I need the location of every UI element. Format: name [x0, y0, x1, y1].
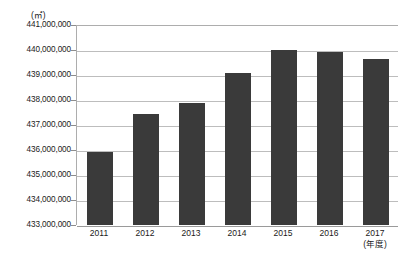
y-axis-tick-mark [71, 100, 76, 101]
bar [363, 59, 389, 225]
y-axis-tick-label: 437,000,000 [27, 120, 71, 130]
y-axis-tick-label: 434,000,000 [27, 195, 71, 205]
bar [87, 152, 113, 225]
x-axis-tick-label-text: 2014 [228, 228, 247, 238]
x-axis-tick-label-text: 2013 [182, 228, 201, 238]
y-axis-tick-label: 433,000,000 [27, 220, 71, 230]
x-axis-tick-label: 2017(年度) [352, 228, 398, 250]
y-axis-tick-mark [71, 50, 76, 51]
bar-series [77, 26, 398, 225]
bar-chart: (㎡) 441,000,000440,000,000439,000,000438… [0, 0, 405, 269]
x-axis-tick-label: 2014 [214, 228, 260, 239]
x-axis-unit-note: (年度) [352, 239, 398, 250]
gridline [77, 226, 398, 227]
bar [271, 50, 297, 225]
bar [317, 52, 343, 225]
y-axis-tick-label: 441,000,000 [27, 20, 71, 30]
y-axis-tick-mark [71, 150, 76, 151]
x-axis-tick-label-text: 2017 [366, 228, 385, 238]
x-axis-tick-labels: 2011201220132014201520162017(年度) [76, 228, 398, 268]
y-axis-tick-labels: 441,000,000440,000,000439,000,000438,000… [0, 0, 76, 269]
y-axis-tick-label: 435,000,000 [27, 170, 71, 180]
y-axis-tick-label: 439,000,000 [27, 70, 71, 80]
x-axis-tick-label: 2016 [306, 228, 352, 239]
y-axis-tick-mark [71, 175, 76, 176]
y-axis-tick-mark [71, 75, 76, 76]
x-axis-tick-label-text: 2015 [274, 228, 293, 238]
y-axis-tick-label: 438,000,000 [27, 95, 71, 105]
x-axis-tick-label-text: 2011 [90, 228, 108, 238]
top-clipped-caption [150, 0, 320, 8]
x-axis-tick-label-text: 2012 [136, 228, 155, 238]
y-axis-tick-mark [71, 225, 76, 226]
y-axis-tick-label: 436,000,000 [27, 145, 71, 155]
y-axis-tick-label: 440,000,000 [27, 45, 71, 55]
bar [133, 114, 159, 225]
bar [225, 73, 251, 225]
x-axis-tick-label: 2012 [122, 228, 168, 239]
y-axis-tick-mark [71, 25, 76, 26]
y-axis-tick-mark [71, 200, 76, 201]
x-axis-tick-label: 2015 [260, 228, 306, 239]
x-axis-tick-label: 2013 [168, 228, 214, 239]
x-axis-tick-label: 2011 [76, 228, 122, 239]
x-axis-tick-label-text: 2016 [320, 228, 339, 238]
y-axis-tick-mark [71, 125, 76, 126]
bar [179, 103, 205, 225]
plot-area [76, 25, 398, 225]
